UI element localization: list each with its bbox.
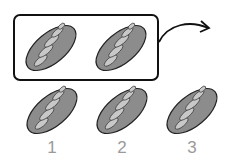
label-3: 3: [182, 138, 202, 158]
bread-loaf-icon: [19, 80, 84, 142]
curved-arrow-icon: [159, 24, 208, 42]
bread-loaf-icon: [18, 17, 83, 79]
bread-loaf-icon: [88, 17, 153, 79]
bread-loaf-icon: [159, 80, 224, 142]
label-2: 2: [112, 138, 132, 158]
label-1: 1: [42, 138, 62, 158]
bread-loaf-icon: [89, 80, 154, 142]
